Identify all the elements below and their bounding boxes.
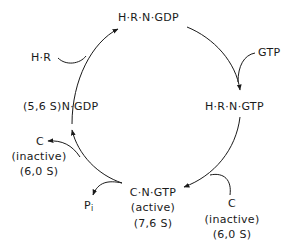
node-cn-gtp-state: (active) [131, 202, 175, 214]
label-gtp-input: GTP [258, 47, 280, 59]
arrow-top-to-right [187, 27, 240, 90]
arrow-c-in [210, 174, 230, 195]
node-cn-gtp: C·N·GTP [130, 187, 177, 199]
c-out-state: (inactive) [11, 151, 66, 163]
c-in-name: C [228, 198, 236, 210]
node-cn-gtp-sedimentation: (7,6 S) [134, 218, 173, 230]
c-out-sedimentation: (6,0 S) [20, 166, 59, 178]
c-in-state: (inactive) [204, 214, 259, 226]
label-pi-output: Pi [84, 200, 93, 215]
arrow-pi-out [93, 182, 122, 195]
c-in-sedimentation: (6,0 S) [213, 229, 252, 241]
node-hrn-gtp: H·R·N·GTP [205, 101, 264, 113]
c-out-name: C [36, 136, 44, 148]
node-hrn-gdp: H·R·N·GDP [118, 12, 179, 24]
node-n-gdp: (5,6 S)N·GDP [23, 101, 99, 113]
label-hr-input: H·R [31, 52, 51, 64]
arrow-gtp-in [238, 53, 255, 82]
arrow-hr-in [58, 56, 86, 63]
arrow-right-to-bottom [184, 117, 240, 187]
pi-subscript: i [91, 204, 94, 213]
pi-base: P [84, 199, 91, 212]
